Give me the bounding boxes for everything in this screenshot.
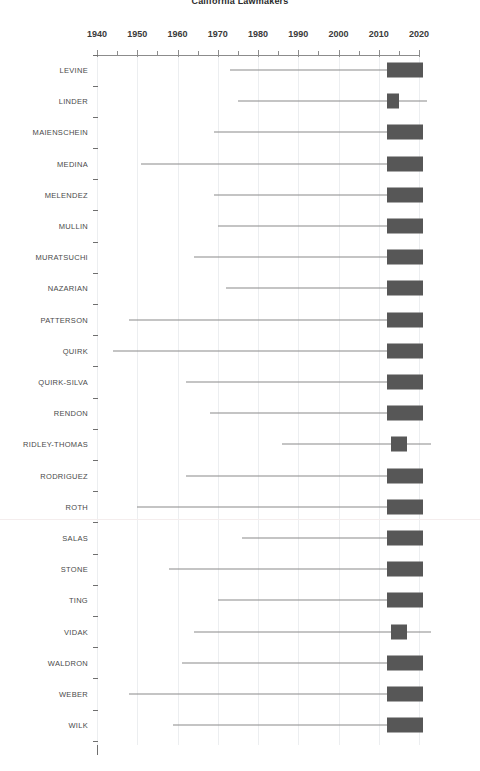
tenure-box [391,437,407,452]
range-line [113,350,423,351]
x-tick-label-2000: 2000 [328,29,348,39]
x-tick-label-2010: 2010 [369,29,389,39]
chart-title: California Lawmakers [0,0,480,6]
tenure-box [391,624,407,639]
range-line [169,569,423,570]
x-tick-2020 [419,50,420,57]
y-tick-16 [93,585,98,586]
y-axis-label-quirk-silva: QUIRK-SILVA [38,378,88,387]
y-tick-0 [93,86,98,87]
range-line [129,319,423,320]
tenure-box [387,499,423,514]
y-tick-4 [93,210,98,211]
gridline-1940 [97,55,98,745]
x-tick-1980 [258,50,259,57]
x-tick-1970 [218,50,219,57]
tenure-box [387,468,423,483]
range-line [129,694,423,695]
y-axis-label-patterson: PATTERSON [41,315,88,324]
x-tick-1950 [137,50,138,57]
x-tick-2000 [339,50,340,57]
tenure-box [387,718,423,733]
x-tick-2010 [379,50,380,57]
y-tick-top [93,55,98,56]
y-tick-20 [93,710,98,711]
gridline-1980 [258,55,259,745]
y-axis-label-medina: MEDINA [57,159,88,168]
x-minor-tick-2005 [359,51,360,56]
x-tick-label-1940: 1940 [87,29,107,39]
y-axis-label-melendez: MELENDEZ [45,190,88,199]
y-tick-15 [93,554,98,555]
x-tick-label-1990: 1990 [288,29,308,39]
tenure-box [387,125,423,140]
x-minor-tick-1995 [318,51,319,56]
y-tick-14 [93,522,98,523]
x-minor-tick-1975 [238,51,239,56]
range-line [173,725,423,726]
y-tick-19 [93,678,98,679]
y-axis-label-roth: ROTH [66,502,88,511]
tenure-box [387,593,423,608]
tenure-box [387,63,423,78]
tenure-box [387,281,423,296]
y-axis-label-rendon: RENDON [54,409,88,418]
y-axis-label-quirk: QUIRK [63,346,88,355]
y-axis-label-rodriguez: RODRIGUEZ [40,471,88,480]
x-minor-tick-1965 [198,51,199,56]
y-tick-5 [93,242,98,243]
y-tick-2 [93,148,98,149]
gridline-2010 [379,55,380,745]
x-tick-1960 [178,50,179,57]
y-tick-6 [93,273,98,274]
range-line [137,506,423,507]
y-tick-17 [93,616,98,617]
gridline-1970 [218,55,219,745]
tenure-box [387,406,423,421]
tenure-box [387,531,423,546]
gridline-1960 [178,55,179,745]
gridline-1990 [298,55,299,745]
y-axis-label-levine: LEVINE [60,66,88,75]
y-axis-label-salas: SALAS [62,534,88,543]
tenure-box [387,687,423,702]
tenure-box [387,655,423,670]
x-tick-label-1950: 1950 [127,29,147,39]
x-tick-label-1960: 1960 [167,29,187,39]
y-axis-label-vidak: VIDAK [64,627,88,636]
y-axis-label-nazarian: NAZARIAN [48,284,88,293]
y-axis-label-mullin: MULLIN [59,222,88,231]
y-tick-3 [93,179,98,180]
tenure-box [387,250,423,265]
x-tick-1990 [298,50,299,57]
y-axis-label-weber: WEBER [59,690,88,699]
range-line [282,444,431,445]
y-tick-12 [93,460,98,461]
x-minor-tick-1955 [157,51,158,56]
y-tick-1 [93,117,98,118]
tenure-box [387,156,423,171]
x-tick-label-1980: 1980 [248,29,268,39]
tenure-box [387,562,423,577]
tenure-box [387,375,423,390]
y-axis-label-wilk: WILK [68,721,88,730]
y-tick-18 [93,647,98,648]
gridline-1950 [137,55,138,745]
tenure-box [387,94,399,109]
y-tick-9 [93,366,98,367]
plot-area: 194019501960197019801990200020102020 LEV… [97,55,440,761]
y-tick-7 [93,304,98,305]
x-minor-tick-1985 [278,51,279,56]
x-minor-tick-2015 [399,51,400,56]
tenure-box [387,219,423,234]
x-tick-label-2020: 2020 [409,29,429,39]
page-hairline [0,519,480,520]
x-tick-label-1970: 1970 [208,29,228,39]
y-tick-8 [93,335,98,336]
y-axis-label-stone: STONE [61,565,88,574]
gridline-2000 [339,55,340,745]
y-axis-label-ting: TING [69,596,88,605]
range-line [141,163,423,164]
y-tick-13 [93,491,98,492]
x-minor-tick-1945 [117,51,118,56]
